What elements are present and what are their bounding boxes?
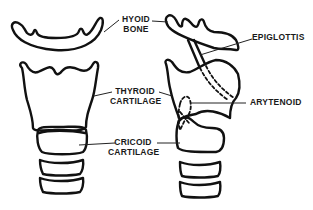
epiglottis-label-text: EPIGLOTTIS (252, 32, 305, 42)
cricoid-label-line2: CARTILAGE (108, 147, 158, 157)
tracheal-ring-lateral-1 (180, 162, 220, 178)
cricoid-top-arc (39, 131, 85, 133)
hyoid-bone-shape (12, 18, 103, 50)
hyoid-bone-label: HYOID BONE (119, 14, 153, 34)
larynx-diagram: HYOID BONE THYROID CARTILAGE CRICOID CAR… (0, 0, 313, 210)
hyoid-label-line1: HYOID (119, 14, 153, 24)
thyroid-lateral-shape (165, 60, 239, 120)
thyroid-cartilage-label: THYROID CARTILAGE (110, 86, 160, 106)
vocal-dashed-line-1 (200, 68, 228, 100)
thyroid-cartilage-shape (20, 62, 98, 131)
epiglottis-shape (166, 15, 238, 50)
tracheal-ring-2 (40, 178, 83, 194)
leader-lines (79, 20, 252, 145)
arytenoid-label-text: ARYTENOID (250, 97, 302, 107)
cricoid-label-line1: CRICOID (108, 137, 158, 147)
epiglottis-label: EPIGLOTTIS (252, 32, 305, 42)
arytenoid-label: ARYTENOID (250, 97, 302, 107)
anterior-view (12, 18, 103, 194)
hyoid-label-line2: BONE (119, 24, 153, 34)
thyroid-label-line2: CARTILAGE (110, 96, 160, 106)
tracheal-ring-lateral-2 (180, 182, 220, 198)
tracheal-ring-1 (40, 160, 83, 176)
lateral-view (165, 15, 239, 197)
hyoid-leader-left (104, 20, 119, 32)
cricoid-cartilage-label: CRICOID CARTILAGE (108, 137, 158, 157)
thyroid-label-line1: THYROID (110, 86, 160, 96)
